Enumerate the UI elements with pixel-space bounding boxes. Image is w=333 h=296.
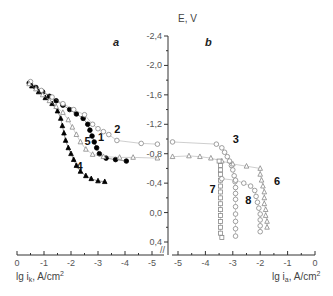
x-tick-label-left: -3 <box>94 258 102 268</box>
polarization-chart: -2,4-2,0-1,6-1,2-0,8-0,40,00,4//0-1-2-3-… <box>0 0 333 296</box>
curve-label-4: 4 <box>76 160 83 172</box>
curve-label-2: 2 <box>114 123 120 135</box>
series-3: 3 <box>170 133 239 239</box>
x-tick-label-right: -3 <box>229 258 237 268</box>
y-tick-label: 0,0 <box>149 208 162 218</box>
series-4: 4 <box>30 83 108 183</box>
y-tick-label: -2,0 <box>146 60 162 70</box>
curve-label-6: 6 <box>274 175 280 187</box>
x-axis-title-left: lg ik, A/cm2 <box>16 270 64 283</box>
y-tick-label: -1,6 <box>146 90 162 100</box>
x-tick-label-left: 0 <box>14 258 19 268</box>
y-tick-label: -2,4 <box>146 31 162 41</box>
x-tick-label-left: -1 <box>40 258 48 268</box>
x-axis-title-right: lg ia, A/cm2 <box>272 270 321 283</box>
curve-label-7: 7 <box>210 183 216 195</box>
x-tick-label-left: -4 <box>121 258 129 268</box>
y-tick-label: -1,2 <box>146 119 162 129</box>
panel-label-b: b <box>205 36 212 48</box>
series-7: 7 <box>210 159 224 240</box>
x-tick-label-right: 0 <box>312 258 317 268</box>
x-tick-label-left: -2 <box>67 258 75 268</box>
curve-label-3: 3 <box>233 133 239 145</box>
y-tick-label: -0,4 <box>146 178 162 188</box>
series-8: 8 <box>220 176 263 234</box>
x-tick-label-right: -4 <box>201 258 209 268</box>
series-5: 5 <box>27 81 160 160</box>
x-tick-label-right: -1 <box>284 258 292 268</box>
y-axis-title: E, V <box>178 13 197 24</box>
y-tick-label: -0,8 <box>146 149 162 159</box>
x-tick-label-right: -2 <box>256 258 264 268</box>
axis-break-mark: // <box>160 245 166 255</box>
x-tick-label-right: -5 <box>174 258 182 268</box>
series-6: 6 <box>170 153 280 229</box>
x-tick-label-left: -5 <box>148 258 156 268</box>
curve-label-5: 5 <box>85 135 91 147</box>
curve-label-8: 8 <box>245 194 251 206</box>
axes: -2,4-2,0-1,6-1,2-0,8-0,40,00,4//0-1-2-3-… <box>14 31 317 268</box>
panel-label-a: a <box>113 36 119 48</box>
